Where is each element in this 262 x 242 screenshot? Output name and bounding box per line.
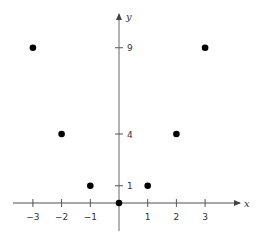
x-tick-label: −3: [26, 212, 39, 222]
x-axis-label: x: [244, 198, 250, 209]
x-tick-label: 2: [174, 212, 180, 222]
x-tick-label: 1: [145, 212, 151, 222]
data-point: [202, 44, 209, 51]
data-point: [58, 131, 65, 138]
data-point: [87, 182, 94, 189]
data-point: [144, 182, 151, 189]
data-point: [30, 44, 37, 51]
x-tick-label: −2: [55, 212, 68, 222]
y-tick-label: 1: [127, 181, 133, 191]
x-tick-label: 3: [202, 212, 208, 222]
data-point: [173, 131, 180, 138]
x-tick-label: −1: [84, 212, 97, 222]
data-point: [116, 200, 123, 207]
y-tick-label: 9: [127, 43, 133, 53]
y-tick-label: 4: [127, 130, 133, 140]
y-ticks: 149: [115, 43, 133, 191]
y-axis-label: y: [125, 11, 132, 22]
scatter-chart: −3−2−1123 149 x y: [0, 0, 262, 242]
